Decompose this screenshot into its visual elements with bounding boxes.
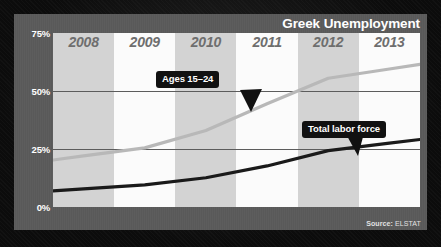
chart-frame: Greek Unemployment 75% 50% 25% 0% 2008 2… [0, 0, 441, 247]
page-title: Greek Unemployment [282, 16, 420, 31]
y-tick-25: 25% [16, 144, 50, 155]
y-tick-0: 0% [16, 202, 50, 213]
y-tick-75: 75% [16, 28, 50, 39]
source-value: ELSTAT [395, 220, 421, 227]
source-label: Source: [366, 220, 393, 227]
series-lines [53, 33, 420, 207]
callout-ages-15-24: Ages 15–24 [156, 71, 219, 88]
line-total-labor-force [53, 139, 420, 190]
plot-area: 2008 2009 2010 2011 2012 2013 [53, 33, 420, 207]
y-axis: 75% 50% 25% 0% [14, 33, 50, 207]
callout-total-labor-force: Total labor force [302, 121, 386, 138]
y-tick-50: 50% [16, 85, 50, 96]
source-credit: Source: ELSTAT [366, 220, 421, 227]
